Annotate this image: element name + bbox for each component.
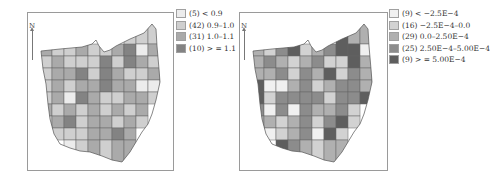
- north-arrow-icon: [32, 30, 33, 60]
- legend-swatch: [389, 9, 399, 18]
- ohio-county-map-right: [252, 24, 377, 164]
- legend-label: (9) < −2.5E−4: [402, 9, 458, 18]
- legend-swatch: [389, 55, 399, 64]
- legend-swatch: [176, 44, 186, 53]
- legend-item: (5) < 0.9: [176, 8, 236, 20]
- legend-item: (9) < −2.5E−4: [389, 8, 490, 20]
- north-indicator-left: N: [27, 22, 37, 60]
- legend-item: (9) > = 5.00E−4: [389, 54, 490, 66]
- legend-label: (25) 2.50E−4–5.00E−4: [402, 44, 490, 53]
- ohio-county-map-left: [40, 24, 165, 164]
- legend-right: (9) < −2.5E−4 (16) −2.5E−4–0.0 (29) 0.0–…: [389, 8, 490, 66]
- legend-item: (31) 1.0–1.1: [176, 31, 236, 43]
- legend-swatch: [389, 21, 399, 30]
- legend-item: (10) > = 1.1: [176, 43, 236, 55]
- legend-label: (31) 1.0–1.1: [189, 32, 234, 41]
- legend-swatch: [176, 32, 186, 41]
- legend-left: (5) < 0.9 (42) 0.9–1.0 (31) 1.0–1.1 (10)…: [176, 8, 236, 54]
- legend-item: (29) 0.0–2.50E−4: [389, 31, 490, 43]
- legend-swatch: [389, 32, 399, 41]
- legend-label: (42) 0.9–1.0: [189, 21, 234, 30]
- legend-swatch: [389, 44, 399, 53]
- legend-swatch: [176, 9, 186, 18]
- legend-item: (42) 0.9–1.0: [176, 20, 236, 32]
- legend-swatch: [176, 21, 186, 30]
- legend-item: (16) −2.5E−4–0.0: [389, 20, 490, 32]
- legend-item: (25) 2.50E−4–5.00E−4: [389, 43, 490, 55]
- legend-label: (29) 0.0–2.50E−4: [402, 32, 469, 41]
- legend-label: (5) < 0.9: [189, 9, 223, 18]
- north-indicator-right: N: [239, 22, 249, 60]
- legend-label: (10) > = 1.1: [189, 44, 236, 53]
- legend-label: (16) −2.5E−4–0.0: [402, 21, 470, 30]
- north-arrow-icon: [244, 30, 245, 60]
- legend-label: (9) > = 5.00E−4: [402, 55, 466, 64]
